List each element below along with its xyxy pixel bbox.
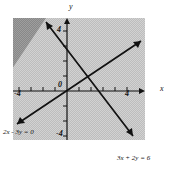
- origin-label: 0: [58, 80, 62, 89]
- x-tick-label-positive: 4: [125, 89, 129, 98]
- line-label-3x-2y-6: 3x + 2y = 6: [117, 154, 150, 162]
- coordinate-plane-svg: [13, 18, 145, 140]
- plot-area: [13, 18, 145, 140]
- line-label-2x-3y-0: 2x - 3y = 0: [3, 128, 34, 136]
- graph-figure: y x 0 -4 4 4 -4 2x - 3y = 0 3x + 2y = 6: [0, 0, 173, 179]
- y-axis-label: y: [69, 2, 73, 11]
- y-tick-label-positive: 4: [57, 25, 61, 34]
- x-axis-label: x: [160, 84, 164, 93]
- y-tick-label-negative: -4: [56, 129, 63, 138]
- x-tick-label-negative: -4: [14, 89, 21, 98]
